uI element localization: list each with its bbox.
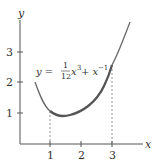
svg-text:12: 12	[61, 72, 71, 81]
y-axis-label: y	[17, 7, 25, 20]
svg-text:3: 3	[6, 46, 13, 59]
svg-text:+ x: + x	[81, 66, 99, 77]
curve-right	[112, 22, 130, 65]
svg-text:−1: −1	[98, 64, 108, 72]
svg-text:2: 2	[78, 149, 85, 162]
curve-left	[35, 82, 50, 111]
chart: y x 3 2 1 1 2 3 y = 1 12 x 3 + x −1	[0, 0, 159, 164]
svg-text:1: 1	[47, 149, 54, 162]
x-axis-label: x	[145, 138, 152, 151]
svg-text:1: 1	[6, 107, 13, 120]
svg-text:2: 2	[6, 76, 13, 89]
svg-text:y =: y =	[35, 66, 53, 77]
svg-text:3: 3	[109, 149, 116, 162]
equation-label: y = 1 12 x 3 + x −1	[35, 61, 108, 81]
svg-text:1: 1	[63, 61, 68, 70]
